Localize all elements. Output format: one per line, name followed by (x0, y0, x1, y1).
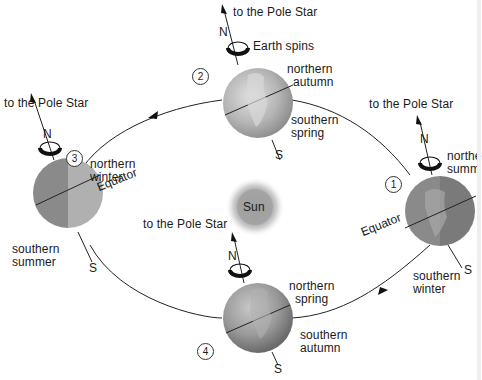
pole-star-label: to the Pole Star (369, 98, 453, 111)
season-label-p4-south: southernautumn (300, 329, 348, 355)
earth-globe-1 (405, 176, 476, 246)
south-label: S (274, 363, 282, 376)
season-label-p2-north: northernautumn (287, 63, 334, 89)
pole-star-label: to the Pole Star (233, 6, 317, 19)
earth-globe-4 (223, 283, 293, 353)
season-label-p3-south: southernsummer (12, 243, 60, 269)
season-label-p4-north: northernspring (289, 280, 335, 306)
position-number-1: 1 (385, 176, 402, 193)
north-label: N (43, 128, 52, 141)
north-label: N (228, 250, 237, 263)
position-number-2: 2 (192, 68, 209, 85)
position-number-3: 3 (66, 150, 83, 167)
pole-star-label: to the Pole Star (4, 97, 88, 110)
north-label: N (420, 133, 429, 146)
south-label: S (275, 149, 283, 162)
page-edge (477, 0, 481, 380)
orbit-arrow-icon (148, 111, 158, 119)
orbit-arrow-icon (378, 287, 388, 295)
earth-globe-2 (223, 68, 293, 138)
pole-star-label: to the Pole Star (143, 218, 227, 231)
earth-spins-label: Earth spins (253, 40, 314, 53)
position-number-4: 4 (197, 343, 214, 360)
south-label: S (89, 262, 97, 275)
season-label-p1-south: southernwinter (413, 270, 461, 296)
sun-label: Sun (243, 201, 265, 214)
north-label: N (219, 26, 228, 39)
south-label: S (464, 264, 472, 277)
season-label-p2-south: southernspring (291, 114, 339, 140)
